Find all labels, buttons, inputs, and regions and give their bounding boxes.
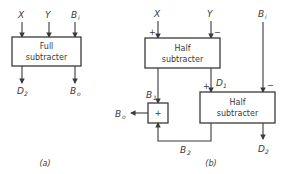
- svg-text:X: X: [153, 9, 161, 19]
- caption-a: (a): [39, 159, 50, 168]
- svg-text:subtracter: subtracter: [26, 53, 68, 62]
- svg-text:D: D: [216, 78, 223, 88]
- input-y-b: Y −: [207, 9, 221, 38]
- svg-text:+: +: [149, 28, 156, 37]
- input-bi-a: B i: [71, 10, 80, 37]
- svg-text:B: B: [71, 10, 77, 20]
- caption-b: (b): [205, 159, 216, 168]
- diagram-a: X Y B i Full subtracter D 2 B o: [12, 10, 81, 168]
- svg-text:2: 2: [187, 149, 191, 156]
- output-d2-b: D 2: [258, 123, 269, 155]
- signal-d1: D 1 +: [203, 68, 227, 92]
- diagram-b: X + Y − Half subtracter B i − D 1 +: [115, 9, 275, 168]
- full-subtracter-block: Full subtracter: [12, 37, 81, 66]
- svg-text:Half: Half: [230, 98, 246, 107]
- svg-text:D: D: [258, 144, 265, 154]
- input-bi-b: B i −: [258, 9, 274, 92]
- svg-text:Half: Half: [175, 44, 191, 53]
- svg-text:i: i: [78, 14, 80, 21]
- svg-text:Full: Full: [40, 42, 54, 51]
- input-x-a: X: [17, 10, 25, 37]
- svg-text:+: +: [203, 82, 210, 91]
- svg-text:B: B: [70, 86, 76, 96]
- svg-text:i: i: [265, 13, 267, 20]
- svg-text:1: 1: [223, 82, 227, 89]
- svg-text:subtracter: subtracter: [217, 109, 259, 118]
- svg-text:o: o: [122, 113, 126, 120]
- output-bo-a: B o: [70, 66, 81, 97]
- svg-text:B: B: [180, 145, 186, 155]
- svg-text:B: B: [146, 90, 152, 100]
- svg-text:Y: Y: [45, 10, 52, 20]
- svg-text:D: D: [17, 86, 24, 96]
- svg-text:2: 2: [265, 148, 269, 155]
- or-gate: +: [148, 103, 168, 123]
- half-subtracter-2: Half subtracter: [200, 92, 275, 123]
- subtracter-diagram: X Y B i Full subtracter D 2 B o: [0, 0, 283, 174]
- svg-text:B: B: [258, 9, 264, 19]
- svg-text:+: +: [155, 109, 162, 118]
- svg-text:subtracter: subtracter: [162, 55, 204, 64]
- signal-b1: B 1: [146, 68, 158, 103]
- svg-text:−: −: [267, 81, 274, 90]
- half-subtracter-1: Half subtracter: [145, 38, 220, 68]
- input-y-a: Y: [45, 10, 52, 37]
- output-bo-b: B o: [115, 109, 148, 120]
- svg-text:−: −: [214, 28, 221, 37]
- svg-text:X: X: [17, 10, 25, 20]
- svg-text:Y: Y: [207, 9, 214, 19]
- input-x-b: X +: [149, 9, 161, 38]
- output-d2-a: D 2: [17, 66, 28, 97]
- signal-b2: B 2: [158, 123, 211, 156]
- svg-text:1: 1: [153, 94, 157, 101]
- svg-text:B: B: [115, 109, 121, 119]
- svg-text:o: o: [77, 90, 81, 97]
- svg-text:2: 2: [24, 90, 28, 97]
